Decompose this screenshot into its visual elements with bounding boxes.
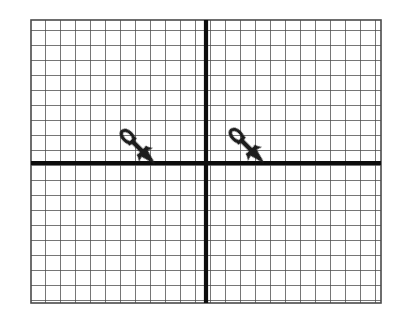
coordinate-plane-figure <box>0 0 405 321</box>
figure-container <box>0 0 405 321</box>
